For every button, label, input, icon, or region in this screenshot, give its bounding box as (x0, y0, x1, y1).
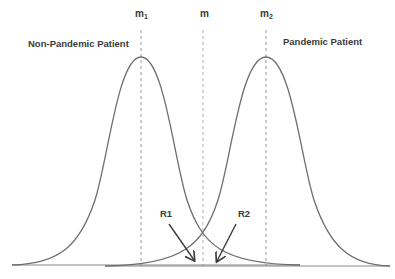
pandemic-patient-label: Pandemic Patient (283, 36, 363, 47)
pandemic-distribution-curve (105, 57, 390, 266)
non-pandemic-patient-label: Non-Pandemic Patient (28, 38, 130, 49)
normal-distribution-diagram: m1 m m2 Non-Pandemic Patient Pandemic Pa… (0, 0, 395, 279)
r1-label: R1 (160, 208, 173, 219)
non-pandemic-distribution-curve (12, 57, 300, 265)
m1-label: m1 (135, 8, 148, 20)
m2-label: m2 (260, 8, 273, 20)
r1-arrow (169, 224, 194, 260)
m-label: m (200, 8, 209, 19)
r2-label: R2 (238, 208, 250, 219)
